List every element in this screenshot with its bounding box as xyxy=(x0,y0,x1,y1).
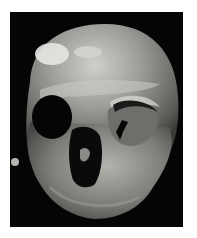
left-eye-socket xyxy=(32,95,72,139)
skull-photo xyxy=(10,12,183,227)
skull-illustration xyxy=(10,12,183,227)
